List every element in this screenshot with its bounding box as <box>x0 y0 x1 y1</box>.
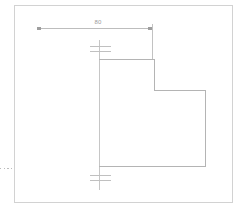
vertical-centerline[interactable] <box>90 40 111 190</box>
drawing-frame <box>15 6 233 203</box>
drawing-canvas[interactable] <box>0 0 244 211</box>
cad-drawing-screenshot: 80 <box>0 0 244 211</box>
dimension-label-width[interactable]: 80 <box>91 19 105 25</box>
width-dimension[interactable] <box>37 24 153 60</box>
dimension-arrow-left-icon <box>37 27 41 31</box>
part-outline[interactable] <box>99 59 206 167</box>
dimension-arrow-right-icon <box>148 27 152 31</box>
